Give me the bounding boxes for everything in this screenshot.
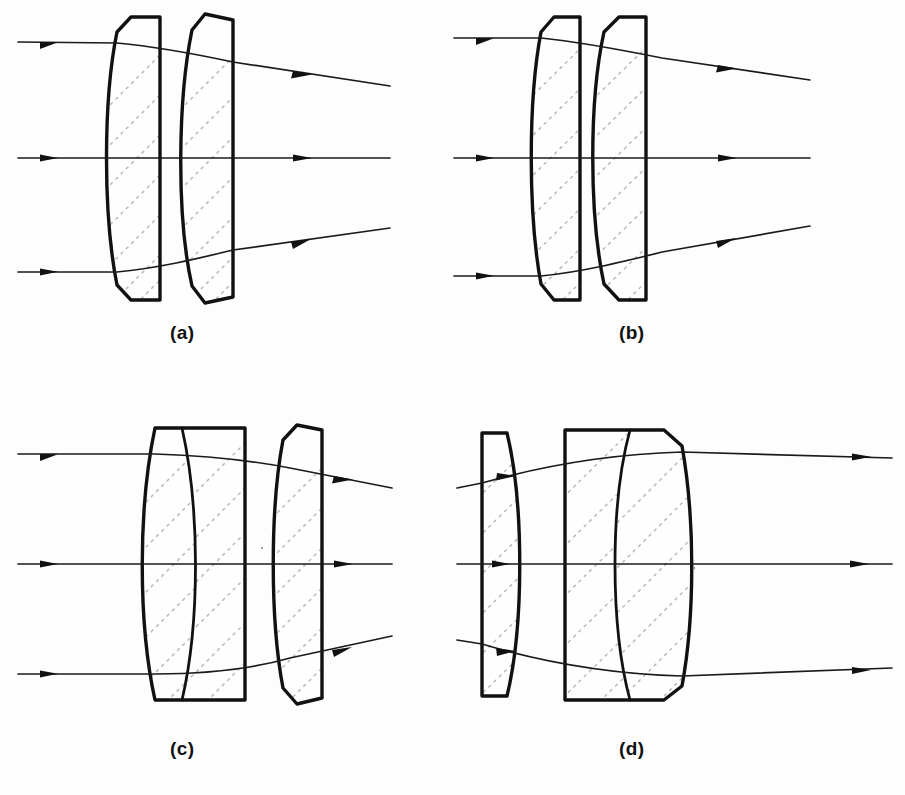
panel-c: (c)	[0, 398, 452, 795]
panel-a-diagram	[0, 0, 452, 330]
lens-element-rear	[170, 14, 250, 330]
panel-b-caption: (b)	[452, 322, 905, 344]
panel-b: (b)	[452, 0, 904, 397]
panel-d: (d)	[452, 398, 904, 795]
panel-d-caption: (d)	[452, 738, 905, 760]
panel-b-diagram	[452, 0, 904, 330]
panel-d-diagram	[452, 408, 904, 738]
lens-element-front	[95, 17, 180, 330]
panel-c-diagram	[0, 408, 452, 738]
figure-root: (a)	[0, 0, 905, 795]
scan-speck	[693, 567, 695, 569]
scan-speck	[261, 547, 263, 549]
panel-a: (a)	[0, 0, 452, 397]
lens-element-rear	[582, 17, 662, 330]
lens-element-front	[518, 17, 597, 330]
